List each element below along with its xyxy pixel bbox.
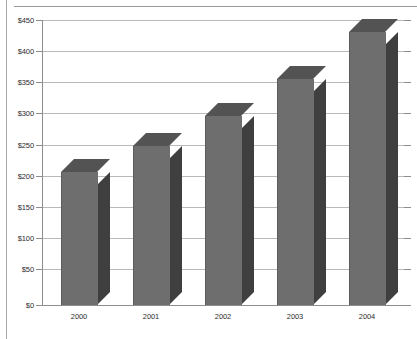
y-tick-100 [36,238,42,239]
y-tick-300 [36,113,42,114]
y-axis-label-250: $250 [0,142,34,150]
y-tick-150 [36,207,42,208]
right-tick-250 [404,145,411,146]
right-tick-350 [404,82,411,83]
y-axis-label-450: $450 [0,17,34,25]
bar-2000[interactable] [61,159,97,305]
y-tick-450 [36,20,42,21]
right-tick-400 [404,51,411,52]
chart-page: $450 $400 $350 $300 $250 $200 $150 $100 … [0,0,417,339]
y-axis-label-300: $300 [0,110,34,118]
x-axis-label-2003: 2003 [265,313,325,321]
y-axis-label-150: $150 [0,204,34,212]
x-axis-label-2004: 2004 [337,313,397,321]
y-tick-200 [36,176,42,177]
bar-2001[interactable] [133,133,169,305]
right-tick-0 [404,305,411,306]
bar-2000-side-face [97,172,110,305]
y-axis-line [42,20,43,306]
bar-2002[interactable] [205,103,241,305]
y-tick-350 [36,82,42,83]
y-tick-250 [36,145,42,146]
y-axis-label-200: $200 [0,173,34,181]
axis-baseline [42,305,410,306]
y-axis-label-50: $50 [0,266,34,274]
right-tick-200 [404,176,411,177]
y-tick-0 [36,305,42,306]
bar-2002-front-face [205,116,242,305]
x-axis-label-2001: 2001 [121,313,181,321]
bar-2003[interactable] [277,66,313,305]
bar-2004-side-face [385,32,398,305]
y-axis-label-100: $100 [0,235,34,243]
right-tick-450 [404,20,411,21]
bar-2000-front-face [61,172,98,305]
bar-2004-front-face [349,32,386,305]
bar-2001-side-face [169,146,182,305]
bar-2002-side-face [241,116,254,305]
y-axis-label-0: $0 [0,302,34,310]
bar-2001-front-face [133,146,170,305]
bar-2004[interactable] [349,19,385,305]
y-tick-50 [36,269,42,270]
x-axis-label-2000: 2000 [49,313,109,321]
y-axis-label-400: $400 [0,48,34,56]
right-tick-50 [404,269,411,270]
y-tick-400 [36,51,42,52]
x-axis-label-2002: 2002 [193,313,253,321]
right-tick-300 [404,113,411,114]
right-tick-150 [404,207,411,208]
y-axis-label-350: $350 [0,79,34,87]
bar-chart: $450 $400 $350 $300 $250 $200 $150 $100 … [0,0,417,339]
bar-2003-front-face [277,79,314,305]
bar-2003-side-face [313,79,326,305]
right-tick-100 [404,238,411,239]
